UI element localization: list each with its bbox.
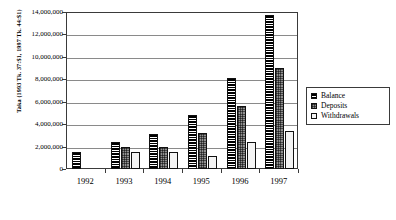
bar-deposits-1994 [159, 147, 168, 169]
bar-balance-1994 [149, 134, 158, 169]
x-axis-tick-mark [105, 169, 106, 173]
bars-layer [66, 12, 298, 169]
bar-group [143, 12, 182, 169]
legend-swatch-withdrawals [311, 113, 317, 119]
bar-deposits-1997 [275, 68, 284, 169]
y-axis-tick-label: 14,000,000 [0, 9, 63, 16]
bar-withdrawals-1996 [247, 142, 256, 169]
x-axis-tick-label-1997: 1997 [249, 177, 309, 186]
bar-group [182, 12, 221, 169]
bar-withdrawals-1994 [169, 152, 178, 169]
bar-group [66, 12, 105, 169]
y-axis-tick-label: 2,000,000 [0, 143, 63, 150]
bar-deposits-1993 [121, 147, 130, 169]
y-axis-tick-label: 12,000,000 [0, 31, 63, 38]
bar-withdrawals-1995 [208, 156, 217, 169]
x-axis-tick-mark [259, 169, 260, 173]
x-axis-tick-mark [143, 169, 144, 173]
legend-item: Balance [311, 91, 386, 101]
bar-balance-1996 [227, 78, 236, 169]
bar-withdrawals-1993 [131, 152, 140, 169]
y-axis-tick-mark [62, 169, 66, 170]
x-axis-tick-mark [221, 169, 222, 173]
bar-withdrawals-1997 [285, 131, 294, 169]
bar-group [105, 12, 144, 169]
y-axis-tick-label: 10,000,000 [0, 53, 63, 60]
y-axis-tick-label: 0 [0, 166, 63, 173]
legend-label-deposits: Deposits [321, 102, 347, 110]
legend-swatch-balance [311, 93, 317, 99]
y-axis-tick-label: 4,000,000 [0, 121, 63, 128]
bar-balance-1997 [265, 15, 274, 169]
bar-balance-1993 [111, 142, 120, 169]
legend-item: Deposits [311, 101, 386, 111]
bar-group [259, 12, 298, 169]
bar-balance-1992 [72, 152, 81, 169]
bar-deposits-1996 [237, 106, 246, 169]
x-axis-tick-mark [298, 169, 299, 173]
top-margin [0, 0, 396, 6]
legend-item: Withdrawals [311, 111, 386, 121]
legend-label-withdrawals: Withdrawals [321, 112, 359, 120]
x-axis-tick-mark [182, 169, 183, 173]
bar-balance-1995 [188, 115, 197, 169]
legend-swatch-deposits [311, 103, 317, 109]
legend: Balance Deposits Withdrawals [306, 87, 390, 125]
bar-deposits-1995 [198, 133, 207, 169]
y-axis-tick-label: 8,000,000 [0, 76, 63, 83]
bar-chart: Taka (1993 Tk. 37:$1, 1997 Tk. 44:$1) 02… [0, 0, 396, 220]
bar-group [221, 12, 260, 169]
y-axis-tick-label: 6,000,000 [0, 98, 63, 105]
legend-label-balance: Balance [321, 92, 345, 100]
